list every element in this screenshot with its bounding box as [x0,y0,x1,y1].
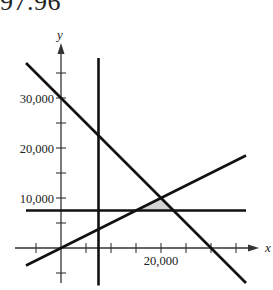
y-tick-label: 10,000 [20,192,54,206]
chart: 30,00020,00010,00020,000xy [0,0,273,290]
x-tick-label: 20,000 [144,254,178,268]
y-axis-label: y [55,27,63,42]
axes [15,43,259,283]
y-tick-label: 30,000 [20,92,54,106]
x-axis-arrow-icon [248,245,259,252]
y-axis-arrow-icon [58,43,65,54]
y-tick-label: 20,000 [20,142,54,156]
x-axis-label: x [264,240,271,255]
